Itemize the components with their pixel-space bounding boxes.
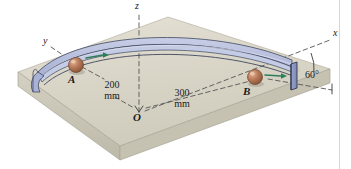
- mechanics-figure: y z x A B O 200 mm 300 mm 60°: [0, 0, 351, 169]
- origin-label-o: O: [133, 112, 141, 124]
- figure-canvas: [0, 0, 351, 169]
- dimension-label-300: 300 mm: [165, 88, 199, 109]
- dimension-label-200: 200 mm: [95, 80, 129, 101]
- page-rule-line: [339, 0, 340, 169]
- angle-label-60: 60°: [305, 70, 319, 81]
- point-label-a: A: [68, 74, 75, 86]
- track-right-endplate: [291, 62, 297, 90]
- ball-a-sphere: [69, 58, 84, 73]
- axis-label-y: y: [43, 36, 47, 47]
- leader-line-y: [51, 47, 63, 55]
- dimension-200-unit: mm: [95, 91, 129, 102]
- ball-b-sphere: [248, 70, 263, 85]
- dimension-300-unit: mm: [165, 99, 199, 110]
- axis-label-x: x: [333, 28, 337, 39]
- ball-b-specular: [250, 72, 255, 76]
- point-label-b: B: [243, 86, 250, 98]
- dimension-300-value: 300: [165, 88, 199, 99]
- ball-a-specular: [71, 60, 76, 64]
- dimension-200-value: 200: [95, 80, 129, 91]
- axis-label-z: z: [135, 1, 139, 12]
